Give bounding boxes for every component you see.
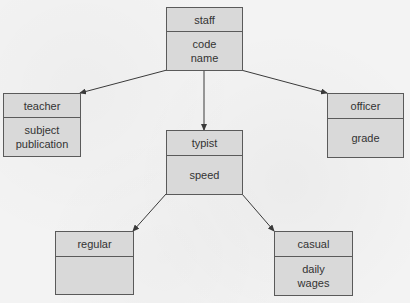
- class-name: staff: [167, 8, 242, 32]
- class-name: typist: [167, 131, 242, 156]
- attribute: name: [191, 51, 219, 65]
- attribute: speed: [190, 168, 220, 182]
- class-attributes: daily wages: [275, 257, 352, 295]
- class-box-teacher: teacher subject publication: [3, 93, 81, 157]
- class-name: teacher: [4, 94, 80, 118]
- arrow-staff-officer: [241, 70, 327, 93]
- class-box-typist: typist speed: [166, 130, 243, 195]
- class-attributes: [56, 257, 133, 294]
- class-name: officer: [328, 94, 403, 119]
- class-box-casual: casual daily wages: [274, 231, 353, 296]
- arrow-staff-teacher: [80, 70, 167, 93]
- attribute: wages: [298, 276, 330, 290]
- arrow-typist-regular: [133, 194, 166, 231]
- arrow-typist-casual: [242, 194, 274, 231]
- class-attributes: grade: [328, 119, 403, 157]
- class-box-officer: officer grade: [327, 93, 404, 158]
- class-attributes: code name: [167, 32, 242, 70]
- class-name: casual: [275, 232, 352, 257]
- class-box-regular: regular: [55, 231, 134, 295]
- attribute: daily: [302, 262, 325, 276]
- class-box-staff: staff code name: [166, 7, 243, 71]
- class-attributes: speed: [167, 156, 242, 194]
- class-attributes: subject publication: [4, 118, 80, 156]
- attribute: subject: [25, 123, 60, 137]
- attribute: code: [193, 37, 217, 51]
- attribute: publication: [16, 137, 69, 151]
- class-name: regular: [56, 232, 133, 257]
- attribute: grade: [351, 131, 379, 145]
